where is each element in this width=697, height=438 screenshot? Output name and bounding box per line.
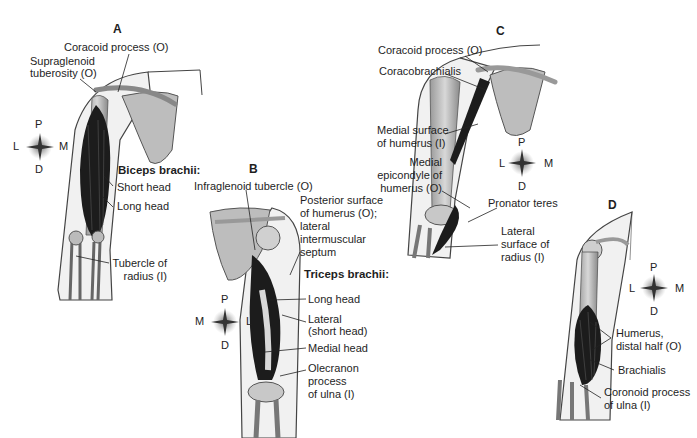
label-epicondyle-line1: Medial xyxy=(370,156,442,169)
label-lateral-radius-line2: surface of xyxy=(501,238,549,251)
panel-a-compass-rose xyxy=(26,133,54,161)
compass-b-l: L xyxy=(246,315,252,327)
label-coracobrachialis: Coracobrachialis xyxy=(379,65,461,78)
label-epicondyle-line2: epicondyle of xyxy=(370,169,442,182)
panel-c-compass-rose xyxy=(508,149,536,177)
panel-d-compass-rose xyxy=(640,274,668,302)
compass-b-d: D xyxy=(221,339,229,351)
label-coronoid-line2: of ulna (I) xyxy=(604,399,650,412)
compass-c-m: M xyxy=(544,157,553,169)
panel-a-letter: A xyxy=(113,22,122,36)
label-olecranon-line1: Olecranon xyxy=(308,362,359,375)
compass-d-p: P xyxy=(650,261,657,273)
compass-c-l: L xyxy=(499,157,505,169)
label-supraglenoid-line2: tuberosity (O) xyxy=(30,67,97,80)
panel-b-compass-rose xyxy=(211,308,239,336)
label-coronoid-line1: Coronoid process xyxy=(604,386,690,399)
label-epicondyle-line3: humerus (O) xyxy=(370,182,442,195)
label-olecranon-line2: process xyxy=(308,375,347,388)
label-olecranon-line3: of ulna (I) xyxy=(308,388,354,401)
biceps-brachii-title: Biceps brachii: xyxy=(118,164,200,177)
label-lateral-radius-line1: Lateral xyxy=(501,225,535,238)
label-posterior-line3: lateral xyxy=(300,220,330,233)
label-posterior-line5: septum xyxy=(300,246,336,259)
label-posterior-line1: Posterior surface xyxy=(300,194,383,207)
label-short-head: Short head xyxy=(117,181,171,194)
label-infraglenoid-tubercle: Infraglenoid tubercle (O) xyxy=(194,180,313,193)
label-long-head-a: Long head xyxy=(117,200,169,213)
label-humerus-line2: distal half (O) xyxy=(616,340,681,353)
compass-c-d: D xyxy=(518,180,526,192)
compass-d-d: D xyxy=(650,305,658,317)
panel-d-letter: D xyxy=(608,198,617,212)
label-pronator-teres: Pronator teres xyxy=(488,197,558,210)
label-coracoid-process-c: Coracoid process (O) xyxy=(378,44,483,57)
label-medial-surface-line2: of humerus (I) xyxy=(377,137,445,150)
label-lateral-radius-line3: radius (I) xyxy=(501,251,544,264)
label-tubercle-line1: Tubercle of xyxy=(100,257,167,270)
compass-b-p: P xyxy=(221,293,228,305)
label-posterior-line4: intermuscular xyxy=(300,233,366,246)
label-lateral-line2: (short head) xyxy=(308,325,367,338)
label-posterior-line2: of humerus (O); xyxy=(300,207,377,220)
label-humerus-line1: Humerus, xyxy=(616,327,664,340)
compass-d-m: M xyxy=(675,282,684,294)
label-tubercle-line2: radius (I) xyxy=(100,270,167,283)
compass-a-p: P xyxy=(35,118,42,130)
triceps-brachii-title: Triceps brachii: xyxy=(304,268,389,281)
panel-c-letter: C xyxy=(496,24,505,38)
compass-b-m: M xyxy=(195,315,204,327)
compass-d-l: L xyxy=(629,282,635,294)
label-brachialis: Brachialis xyxy=(618,364,666,377)
compass-a-d: D xyxy=(35,163,43,175)
label-long-head-b: Long head xyxy=(308,293,360,306)
label-medial-head: Medial head xyxy=(308,342,368,355)
compass-a-l: L xyxy=(13,140,19,152)
compass-a-m: M xyxy=(59,140,68,152)
label-medial-surface-line1: Medial surface xyxy=(377,124,449,137)
compass-c-p: P xyxy=(518,136,525,148)
label-coracoid-process-a: Coracoid process (O) xyxy=(64,41,169,54)
panel-b-letter: B xyxy=(249,162,258,176)
